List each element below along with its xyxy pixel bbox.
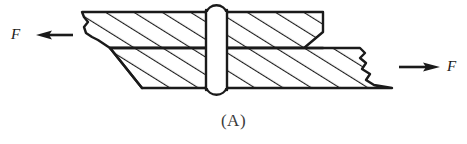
force-label-right: F (447, 59, 456, 74)
force-label-left: F (11, 27, 20, 42)
figure-container: F F (A) (0, 0, 467, 144)
figure-caption: (A) (0, 111, 467, 131)
rivet (206, 5, 227, 94)
force-arrow-left (36, 31, 73, 40)
rivet-head-bottom (206, 87, 227, 95)
rivet-head-top (206, 5, 227, 13)
force-arrow-right (399, 63, 440, 72)
rivet-shank-fill (206, 12, 227, 88)
lower-plate (100, 44, 400, 94)
